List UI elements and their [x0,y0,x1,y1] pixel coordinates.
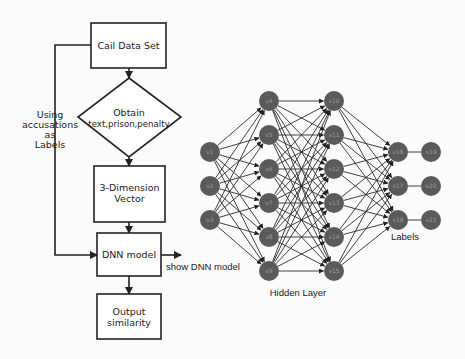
node-label: v5 [265,131,273,138]
decision-label-line2: text,prison,penalty [88,119,169,129]
node-label: v7 [265,199,273,206]
network-node-v12: v12 [324,159,344,179]
network-node-v14: v14 [324,227,344,247]
labels-feedback-line [55,45,97,255]
node-label: v20 [425,182,436,189]
network-node-v2: v2 [200,176,220,196]
network-node-v20: v20 [421,176,441,196]
network-node-v8: v8 [259,227,279,247]
network-node-v4: v4 [259,91,279,111]
network-node-v1: v1 [200,142,220,162]
network-edge [339,161,393,262]
node-label: v13 [328,199,339,206]
node-label: v14 [328,233,339,240]
network-node-v11: v11 [324,125,344,145]
network-edge [214,110,264,211]
labels-label: Labels [391,231,419,242]
node-label: v11 [328,131,339,138]
output-label-line1: Output [113,306,146,317]
node-label: v19 [425,148,436,155]
node-label: v6 [265,165,273,172]
network-edge [342,107,390,145]
network-node-v15: v15 [324,261,344,281]
cail-data-set-label: Cail Data Set [97,40,159,51]
diagram-canvas: Cail Data Set Obtain text,prison,penalty… [0,0,465,359]
node-label: v4 [265,97,273,104]
network-node-v9: v9 [259,261,279,281]
network-edge [342,227,390,265]
network-node-v18: v18 [388,210,408,230]
node-label: v8 [265,233,273,240]
network-node-v21: v21 [421,210,441,230]
node-label: v21 [425,216,436,223]
network-node-v6: v6 [259,159,279,179]
network-node-v19: v19 [421,142,441,162]
network-edge [216,110,263,178]
decision-label-line1: Obtain [113,107,145,118]
node-label: v9 [265,267,273,274]
node-label: v2 [206,182,214,189]
network-nodes: v1v2v3v4v5v6v7v8v9v10v11v12v13v14v15v16v… [200,91,441,281]
node-label: v15 [328,267,339,274]
network-node-v3: v3 [200,210,220,230]
network-node-v16: v16 [388,142,408,162]
node-label: v1 [206,148,214,155]
network-edge [218,108,261,146]
vector-label-line2: Vector [114,193,144,204]
node-label: v3 [206,216,214,223]
network-edge [218,227,261,265]
network-node-v10: v10 [324,91,344,111]
output-label-line2: similarity [107,317,151,328]
network-node-v7: v7 [259,193,279,213]
node-label: v12 [328,165,339,172]
dnn-model-label: DNN model [102,249,156,260]
network-node-v13: v13 [324,193,344,213]
network-node-v17: v17 [388,176,408,196]
network-node-v5: v5 [259,125,279,145]
node-label: v17 [392,182,403,189]
show-dnn-model-label: show DNN model [166,261,240,272]
vector-label-line1: 3-Dimension [100,182,160,193]
node-label: v16 [392,148,403,155]
flowchart [55,23,181,339]
network-edge [220,223,259,234]
node-label: v18 [392,216,403,223]
side-label-line4: Labels [35,139,66,150]
node-label: v10 [328,97,339,104]
network-edge [340,194,392,263]
hidden-layer-label: Hidden Layer [270,287,327,298]
